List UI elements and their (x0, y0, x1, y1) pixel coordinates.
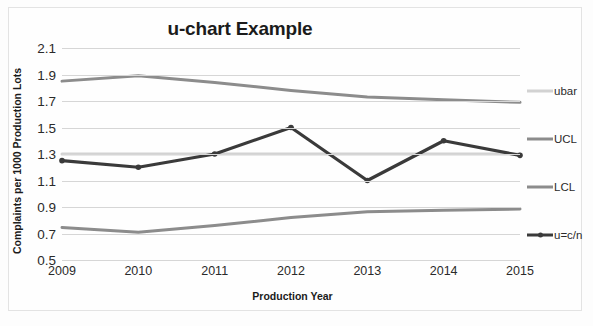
x-axis-tick-label: 2015 (506, 264, 534, 278)
x-axis-title: Production Year (60, 290, 525, 302)
x-axis-tick-label: 2014 (430, 264, 458, 278)
legend-swatch-icon (527, 181, 553, 193)
legend-item-LCL[interactable]: LCL (527, 180, 575, 194)
legend-line (527, 90, 553, 93)
x-axis-tick-label: 2011 (201, 264, 228, 278)
legend-swatch-icon (527, 85, 553, 97)
x-axis-tick-label: 2010 (124, 264, 152, 278)
gridline (62, 101, 520, 102)
y-axis-tick-label: 1.5 (37, 120, 56, 135)
y-axis-tick-label: 1.7 (37, 94, 56, 109)
y-axis-tick-label: 1.1 (37, 173, 56, 188)
y-axis-tick-label: 0.9 (37, 200, 56, 215)
gridline (62, 260, 520, 261)
x-axis-tick-label: 2012 (277, 264, 305, 278)
gridline (62, 48, 520, 49)
plot-area: 2.11.91.71.51.31.10.90.70.5 200920102011… (62, 48, 520, 260)
y-axis-tick-label: 1.9 (37, 67, 56, 82)
x-axis-tick-label: 2013 (353, 264, 381, 278)
gridline (62, 207, 520, 208)
legend-swatch-icon (527, 133, 553, 145)
legend-marker-icon (538, 233, 543, 238)
u-chart-figure: u-chart Example Complaints per 1000 Prod… (0, 0, 593, 326)
legend-line (527, 186, 553, 189)
data-point-marker (136, 164, 142, 170)
chart-title: u-chart Example (0, 18, 480, 40)
y-axis-tick-label: 1.3 (37, 147, 56, 162)
legend-label: u=c/n (553, 229, 582, 241)
y-axis-title: Complaints per 1000 Production Lots (11, 61, 23, 261)
y-axis-tick-label: 0.7 (37, 226, 56, 241)
gridline (62, 181, 520, 182)
data-point-marker (441, 138, 447, 144)
legend-item-u=c/n[interactable]: u=c/n (527, 228, 582, 242)
legend-item-ubar[interactable]: ubar (527, 84, 577, 98)
legend-line (527, 138, 553, 141)
y-axis-tick-label: 2.1 (37, 41, 56, 56)
gridline (62, 128, 520, 129)
gridline (62, 75, 520, 76)
legend-label: LCL (553, 181, 575, 193)
series-line-UCL (62, 76, 520, 103)
legend-label: UCL (553, 133, 577, 145)
series-line-LCL (62, 209, 520, 232)
x-axis-tick-label: 2009 (48, 264, 76, 278)
gridline (62, 154, 520, 155)
data-point-marker (59, 158, 65, 164)
legend-swatch-icon (527, 229, 553, 241)
gridline (62, 234, 520, 235)
legend-label: ubar (553, 85, 577, 97)
legend-item-UCL[interactable]: UCL (527, 132, 577, 146)
